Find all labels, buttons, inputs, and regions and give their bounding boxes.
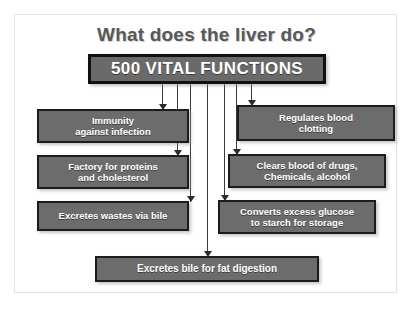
node-immunity[interactable]: Immunity against infection <box>37 109 189 143</box>
node-regulates-clotting-label: Regulates blood clotting <box>275 112 357 134</box>
node-immunity-line2: against infection <box>75 126 150 137</box>
node-immunity-line1: Immunity <box>92 115 134 126</box>
node-converts-glucose[interactable]: Converts excess glucose to starch for st… <box>218 200 376 234</box>
node-excretes-wastes[interactable]: Excretes wastes via bile <box>37 201 189 231</box>
node-factory[interactable]: Factory for proteins and cholesterol <box>37 155 189 189</box>
root-node-label: 500 VITAL FUNCTIONS <box>107 59 307 79</box>
node-excretes-bile-label: Excretes bile for fat digestion <box>133 263 281 275</box>
node-glucose-line2: to starch for storage <box>251 217 343 228</box>
node-excretes-wastes-label: Excretes wastes via bile <box>55 210 172 221</box>
node-clears-line2: Chemicals, alcohol <box>264 171 350 182</box>
node-excretes-bile[interactable]: Excretes bile for fat digestion <box>95 256 319 282</box>
slide-canvas: What does the liver do? 500 VITAL FUNCTI… <box>0 0 413 309</box>
page-title: What does the liver do? <box>0 24 413 46</box>
node-factory-line2: and cholesterol <box>78 172 148 183</box>
node-converts-glucose-label: Converts excess glucose to starch for st… <box>236 206 358 228</box>
node-factory-line1: Factory for proteins <box>68 161 158 172</box>
node-clears-blood-label: Clears blood of drugs, Chemicals, alcoho… <box>253 160 362 182</box>
node-factory-label: Factory for proteins and cholesterol <box>64 161 162 183</box>
node-clotting-line2: clotting <box>299 123 333 134</box>
connector-line-excretes-waste <box>190 84 191 202</box>
connector-line-glucose <box>224 84 225 201</box>
root-node-500-vital-functions[interactable]: 500 VITAL FUNCTIONS <box>88 54 326 84</box>
node-immunity-label: Immunity against infection <box>71 115 154 137</box>
node-clotting-line1: Regulates blood <box>279 112 353 123</box>
node-regulates-clotting[interactable]: Regulates blood clotting <box>237 105 395 141</box>
node-clears-blood[interactable]: Clears blood of drugs, Chemicals, alcoho… <box>228 154 386 188</box>
node-glucose-line1: Converts excess glucose <box>240 206 354 217</box>
node-clears-line1: Clears blood of drugs, <box>257 160 358 171</box>
connector-line-bile <box>207 84 208 257</box>
